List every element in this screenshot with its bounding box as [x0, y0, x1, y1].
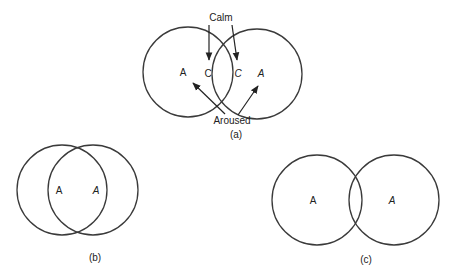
panel-a: Calm A C C A Aroused (a) — [143, 12, 302, 140]
panel-b-right-A: A — [92, 185, 100, 196]
calm-label: Calm — [209, 12, 232, 23]
panel-c-caption: (c) — [360, 254, 372, 265]
aroused-label: Aroused — [213, 115, 250, 126]
aroused-arrow-left — [193, 83, 225, 114]
panel-a-left-C: C — [204, 68, 211, 79]
panel-c-left-A: A — [310, 195, 317, 206]
panel-a-caption: (a) — [230, 129, 242, 140]
panel-c: A A (c) — [272, 155, 439, 265]
panel-b-caption: (b) — [89, 252, 101, 263]
panel-c-right-A: A — [388, 195, 396, 206]
aroused-arrow-right — [238, 86, 258, 115]
panel-a-right-A: A — [257, 68, 265, 79]
calm-arrow-right — [232, 25, 237, 60]
panel-b-left-A: A — [56, 185, 63, 196]
panel-b: A A (b) — [17, 145, 138, 263]
panel-a-left-circle — [143, 27, 233, 117]
venn-figure: Calm A C C A Aroused (a) A A (b) A A (c) — [0, 0, 457, 280]
panel-a-left-A: A — [180, 67, 187, 78]
panel-a-right-C: C — [234, 68, 242, 79]
